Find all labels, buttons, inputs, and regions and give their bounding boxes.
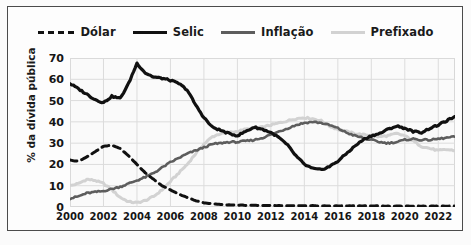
y-tick-label: 60 [30,74,64,85]
y-tick-label: 30 [30,138,64,149]
y-tick-label: 10 [30,181,64,192]
legend-label-selic: Selic [173,25,204,39]
chart-legend: Dólar Selic Inflação Prefixado [8,21,464,43]
y-tick-label: 70 [30,53,64,64]
legend-item-selic: Selic [133,25,204,39]
chart-figure: Dólar Selic Inflação Prefixado % da dívi… [0,0,471,245]
y-tick-label: 20 [30,159,64,170]
legend-label-dolar: Dólar [80,25,115,39]
plot-area [70,58,455,207]
legend-item-prefixado: Prefixado [331,25,434,39]
legend-label-prefixado: Prefixado [371,25,434,39]
legend-swatch-dolar-icon [38,31,74,34]
legend-swatch-selic-icon [133,31,167,34]
legend-label-inflacao: Inflação [261,25,313,39]
legend-item-inflacao: Inflação [221,25,313,39]
chart-frame: Dólar Selic Inflação Prefixado % da dívi… [7,6,463,231]
legend-item-dolar: Dólar [38,25,115,39]
y-tick-label: 50 [30,96,64,107]
y-tick-label: 40 [30,117,64,128]
series-line-dlar [70,145,455,206]
chart-lines [70,58,455,207]
legend-swatch-inflacao-icon [221,31,255,34]
x-tick-label: 2022 [418,212,458,222]
legend-swatch-prefixado-icon [331,31,365,34]
